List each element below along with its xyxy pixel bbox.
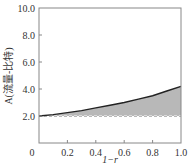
y-tick-label: 10.0: [18, 3, 36, 14]
area-chart: 2.04.06.08.010.000.20.40.60.81.0 A(流量-比特…: [0, 0, 188, 166]
x-tick-label: 0.6: [118, 147, 131, 158]
x-tick-label: 0: [30, 147, 35, 158]
plot-area: 2.04.06.08.010.000.20.40.60.81.0: [18, 3, 188, 159]
x-tick-label: 0.8: [146, 147, 159, 158]
y-tick-label: 2.0: [23, 111, 36, 122]
y-tick-label: 8.0: [23, 30, 36, 41]
x-axis-label: 1−r: [102, 154, 118, 165]
x-tick-label: 0.2: [61, 147, 74, 158]
x-tick-label: 1.0: [175, 147, 188, 158]
shaded-area: [39, 86, 181, 116]
y-axis-label: A(流量-比特): [2, 47, 15, 104]
plot-frame: [39, 8, 181, 143]
y-tick-label: 6.0: [23, 57, 36, 68]
x-tick-label: 0.4: [90, 147, 103, 158]
y-tick-label: 4.0: [23, 84, 36, 95]
